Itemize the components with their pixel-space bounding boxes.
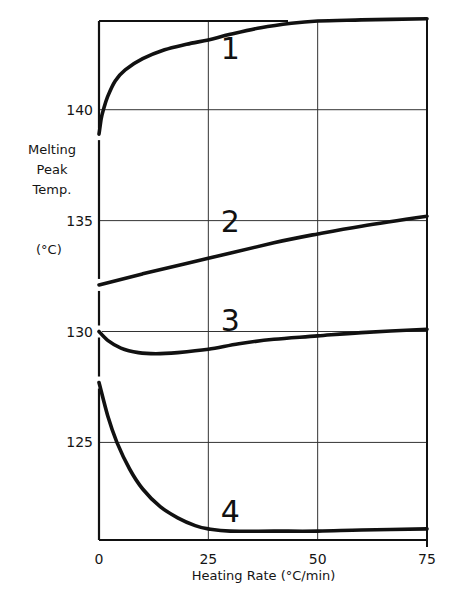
y-axis-label-line-1: Melting [18,140,86,160]
y-axis-unit: (°C) [36,242,62,257]
curve-4 [99,383,427,532]
curve-1 [99,19,427,134]
x-tick-label: 25 [199,551,217,567]
y-tick-label: 135 [66,213,93,229]
x-axis-label: Heating Rate (°C/min) [0,568,457,583]
y-tick-label: 130 [66,324,93,340]
curve-label-1: 1 [221,31,240,66]
x-tick-label: 75 [418,551,436,567]
data-curves [96,19,427,531]
curve-label-2: 2 [221,204,240,239]
curve-label-4: 4 [221,494,240,529]
tick-labels: 0255075125130135140 [66,102,436,567]
curve-3 [99,329,427,353]
curve-2 [99,216,427,285]
y-axis-label: Melting Peak Temp. [18,140,86,200]
gridlines [99,21,427,540]
plot-frame [99,18,427,547]
curve-labels: 1234 [221,31,240,530]
x-tick-label: 50 [309,551,327,567]
y-tick-label: 125 [66,434,93,450]
curve-label-3: 3 [221,303,240,338]
y-axis-label-line-2: Peak [18,160,86,180]
x-tick-label: 0 [95,551,104,567]
y-tick-label: 140 [66,102,93,118]
melting-peak-chart: 1234 0255075125130135140 [0,0,457,602]
y-axis-label-line-3: Temp. [18,180,86,200]
